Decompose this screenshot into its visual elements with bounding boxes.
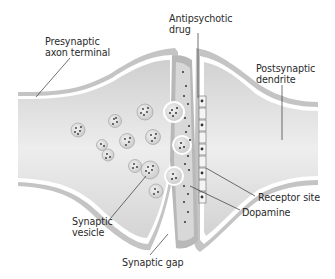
label-presynaptic-axon-terminal: Presynaptic axon terminal xyxy=(45,36,110,58)
label-receptor-site: Receptor site xyxy=(258,192,320,203)
label-synaptic-gap: Synaptic gap xyxy=(122,257,183,268)
label-synaptic-vesicle: Synaptic vesicle xyxy=(72,216,113,238)
label-postsynaptic-dendrite: Postsynaptic dendrite xyxy=(256,63,315,85)
label-antipsychotic-drug: Antipsychotic drug xyxy=(169,13,232,35)
label-dopamine: Dopamine xyxy=(242,207,290,218)
